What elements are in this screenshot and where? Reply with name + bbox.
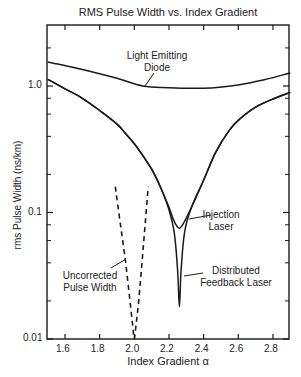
x-axis-label: Index Gradient α (47, 355, 289, 367)
annotation-leaders (111, 73, 211, 276)
annotation-uncorrected-line1: Uncorrected (60, 270, 120, 282)
x-tick-label: 2.4 (195, 343, 209, 354)
leader-line (111, 259, 126, 268)
annotation-injection-line2: Laser (196, 221, 246, 233)
annotation-led-line2: Diode (118, 62, 196, 74)
annotation-dfb-line1: Distributed (198, 265, 274, 277)
x-tick-label: 2.6 (229, 343, 243, 354)
annotation-dfb-line2: Feedback Laser (198, 277, 274, 289)
annotation-dfb-laser: Distributed Feedback Laser (198, 265, 274, 289)
y-tick-label: 0.1 (28, 206, 42, 217)
series-injection-laser (48, 79, 291, 228)
x-tick-label: 1.6 (56, 343, 70, 354)
y-tick-label: 0.01 (23, 332, 42, 343)
x-tick-label: 2.8 (264, 343, 278, 354)
annotation-injection-laser: Injection Laser (196, 209, 246, 233)
chart-title: RMS Pulse Width vs. Index Gradient (0, 6, 301, 18)
annotation-uncorrected: Uncorrected Pulse Width (60, 270, 120, 294)
data-series (48, 62, 291, 339)
x-tick-label: 2.2 (160, 343, 174, 354)
y-tick-label: 1.0 (28, 79, 42, 90)
leader-line (145, 73, 154, 86)
x-tick-label: 1.8 (91, 343, 105, 354)
y-axis-label: rms Pulse Width (ns/km) (12, 141, 23, 250)
annotation-uncorrected-line2: Pulse Width (60, 282, 120, 294)
annotation-led-line1: Light Emitting (118, 50, 196, 62)
annotation-injection-line1: Injection (196, 209, 246, 221)
x-tick-label: 2.0 (125, 343, 139, 354)
annotation-led: Light Emitting Diode (118, 50, 196, 74)
